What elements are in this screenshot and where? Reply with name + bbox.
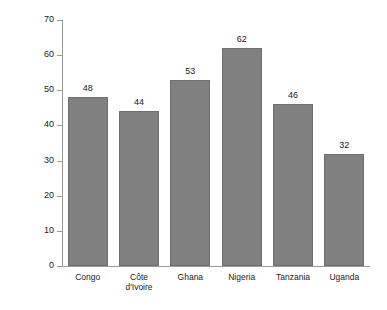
bar-value-label: 62 [216, 35, 267, 44]
x-axis-category-line: Congo [75, 272, 100, 282]
bar[interactable] [68, 97, 108, 266]
bar[interactable] [222, 48, 262, 266]
y-axis-tick-label: 40 [14, 120, 54, 129]
bar-value-label: 53 [165, 67, 216, 76]
bar-group[interactable]: 62 [216, 20, 267, 266]
y-axis-tick-label: 20 [14, 191, 54, 200]
x-axis-category-line: Ghana [178, 272, 204, 282]
y-axis-tick-label: 30 [14, 156, 54, 165]
x-axis-category-label: Uganda [314, 272, 374, 282]
y-axis-tick-label: 10 [14, 226, 54, 235]
y-axis-tick-label: 0 [14, 261, 54, 270]
bar-value-label: 48 [62, 84, 113, 93]
bar-group[interactable]: 48 [62, 20, 113, 266]
x-axis-category-line: Tanzania [276, 272, 310, 282]
bar[interactable] [273, 104, 313, 266]
bar[interactable] [170, 80, 210, 266]
x-axis-category-line: Côte [130, 272, 148, 282]
bar-group[interactable]: 44 [113, 20, 164, 266]
bar-value-label: 46 [267, 91, 318, 100]
bar-group[interactable]: 46 [267, 20, 318, 266]
y-axis-tick-label: 70 [14, 15, 54, 24]
y-axis-tick-label: 60 [14, 50, 54, 59]
bar-value-label: 32 [319, 141, 370, 150]
x-axis-category-line: Nigeria [228, 272, 255, 282]
plot-area: 484453624632 [62, 20, 370, 266]
y-axis-tick [57, 266, 63, 267]
bar[interactable] [324, 154, 364, 266]
bar-group[interactable]: 32 [319, 20, 370, 266]
bar-chart: Days per Ha 010203040506070 484453624632… [0, 0, 387, 310]
y-axis-tick-label: 50 [14, 85, 54, 94]
bar-group[interactable]: 53 [165, 20, 216, 266]
x-axis-category-line: Uganda [329, 272, 359, 282]
bar[interactable] [119, 111, 159, 266]
bar-value-label: 44 [113, 98, 164, 107]
x-axis-category-line: d'Ivoire [109, 282, 169, 292]
x-axis-line [62, 266, 370, 267]
